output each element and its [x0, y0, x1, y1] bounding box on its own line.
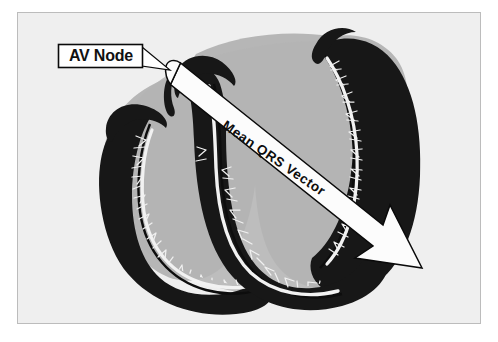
heart-conduction-diagram — [0, 0, 498, 342]
figure-root: AV Node Mean QRS Vector — [0, 0, 498, 342]
callout-box[interactable] — [59, 45, 143, 68]
